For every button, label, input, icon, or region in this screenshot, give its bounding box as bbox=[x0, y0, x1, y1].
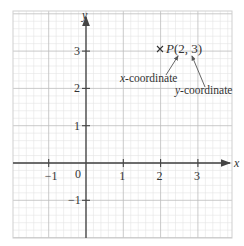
y-coordinate-label: y-coordinate bbox=[174, 84, 232, 97]
y-coordinate-arrow bbox=[192, 56, 205, 87]
origin-label: 0 bbox=[75, 167, 81, 181]
x-tick-label: −1 bbox=[45, 169, 58, 183]
y-axis-label: y bbox=[81, 8, 88, 22]
x-tick-label: 3 bbox=[194, 169, 200, 183]
x-tick-label: 1 bbox=[119, 169, 125, 183]
point-p: P(2, 3) bbox=[157, 41, 202, 56]
x-axis-label: x bbox=[233, 156, 240, 170]
y-tick-label: −1 bbox=[68, 193, 81, 207]
x-tick-label: 2 bbox=[157, 169, 163, 183]
y-tick-label: 3 bbox=[74, 44, 80, 58]
coordinate-plane: x y −1123 321−1 0 P(2, 3) x-coordinate y… bbox=[0, 0, 244, 246]
point-label: P(2, 3) bbox=[165, 41, 202, 56]
y-tick-label: 2 bbox=[74, 81, 80, 95]
x-coordinate-label: x-coordinate bbox=[119, 72, 177, 84]
y-tick-label: 1 bbox=[74, 119, 80, 133]
